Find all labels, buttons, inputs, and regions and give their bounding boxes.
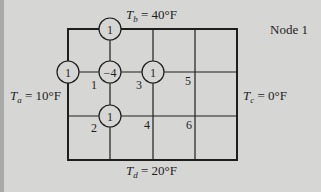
svg-text:1: 1 (107, 110, 113, 124)
svg-text:1: 1 (150, 66, 156, 80)
boundary-label-top: Tb = 40°F (126, 8, 177, 24)
stencil-left-circle: 1 (57, 61, 79, 83)
svg-text:1: 1 (65, 66, 71, 80)
node-caption: Node 1 (270, 23, 308, 36)
boundary-label-left: Ta = 10°F (10, 89, 61, 105)
node-number-6: 6 (186, 119, 192, 131)
node-number-5: 5 (185, 75, 191, 87)
stencil-center-circle: −4 (99, 61, 121, 83)
node-number-4: 4 (144, 119, 150, 131)
boundary-label-right: Tc = 0°F (243, 89, 287, 105)
node-number-2: 2 (91, 122, 97, 134)
node-number-3: 3 (136, 79, 142, 91)
stencil-right-circle: 1 (142, 61, 164, 83)
svg-text:1: 1 (107, 23, 113, 37)
node-number-1: 1 (91, 79, 97, 91)
svg-text:−4: −4 (104, 66, 117, 80)
stencil-top-circle: 1 (99, 18, 121, 40)
boundary-label-bottom: Td = 20°F (126, 164, 177, 180)
stencil-bottom-circle: 1 (99, 105, 121, 127)
